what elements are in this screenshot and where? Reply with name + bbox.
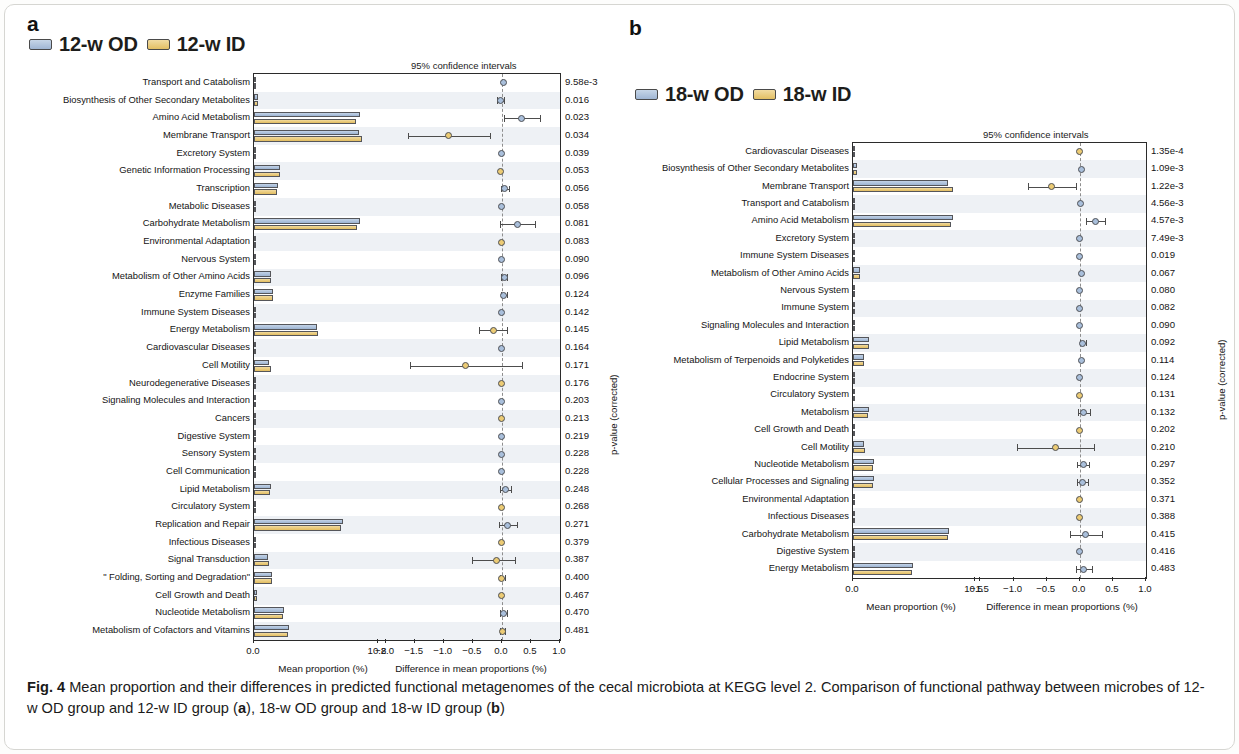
- ci-cap: [507, 327, 508, 334]
- ci-cap: [535, 221, 536, 228]
- ci-cap: [1070, 531, 1071, 538]
- ci-dot-od: [1078, 357, 1085, 364]
- panel-a-ci-layer: [254, 74, 560, 640]
- pvalue-label: 0.056: [565, 183, 589, 193]
- ci-dot-id: [1076, 514, 1083, 521]
- ci-cap: [1105, 218, 1106, 225]
- panel-a: a 12-w OD 12-w ID 95% confidence interva…: [5, 5, 615, 670]
- ci-cap: [507, 610, 508, 617]
- pvalue-label: 0.297: [1151, 459, 1175, 469]
- category-label: Environmental Adaptation: [615, 494, 849, 504]
- ci-dot-id: [498, 415, 505, 422]
- legend-item-id: 18-w ID: [753, 83, 852, 106]
- ci-dot-od: [498, 433, 505, 440]
- category-label: Metabolism of Other Amino Acids: [615, 268, 849, 278]
- axis-tick-label: −0.5: [462, 645, 481, 656]
- ci-dot-id: [493, 557, 500, 564]
- pvalue-label: 7.49e-3: [1151, 233, 1184, 243]
- pvalue-label: 0.124: [565, 289, 589, 299]
- axis-tick: [1046, 577, 1047, 581]
- pvalue-label: 0.034: [565, 130, 589, 140]
- category-label: Signal Transduction: [5, 554, 250, 564]
- panel-b-ci-title: 95% confidence intervals: [983, 129, 1089, 140]
- axis-tick: [1145, 577, 1146, 581]
- pvalue-label: 0.053: [565, 165, 589, 175]
- category-label: Nucleotide Metabolism: [615, 459, 849, 469]
- pvalue-label: 0.124: [1151, 372, 1175, 382]
- category-label: Signaling Molecules and Interaction: [615, 320, 849, 330]
- axis-tick: [1013, 577, 1014, 581]
- ci-cap: [1092, 566, 1093, 573]
- panel-b-left-axis-title: Mean proportion (%): [866, 601, 955, 612]
- ci-cap: [499, 522, 500, 529]
- category-label: Cell Growth and Death: [5, 590, 250, 600]
- ci-dot-od: [1079, 479, 1086, 486]
- category-label: Transport and Catabolism: [5, 77, 250, 87]
- axis-tick: [852, 577, 853, 581]
- ci-dot-od: [498, 256, 505, 263]
- category-label: Enzyme Families: [5, 289, 250, 299]
- axis-tick: [501, 639, 502, 643]
- caption-ref-a: a: [238, 700, 246, 716]
- pvalue-label: 0.132: [1151, 407, 1175, 417]
- category-label: Lipid Metabolism: [615, 337, 849, 347]
- ci-dot-id: [490, 327, 497, 334]
- pvalue-label: 0.090: [565, 254, 589, 264]
- ci-dot-od: [1076, 548, 1083, 555]
- ci-cap: [1102, 531, 1103, 538]
- ci-dot-od: [1077, 200, 1084, 207]
- pvalue-label: 0.096: [565, 271, 589, 281]
- ci-dot-id: [497, 168, 504, 175]
- ci-dot-od: [1079, 340, 1086, 347]
- axis-tick: [414, 639, 415, 643]
- ci-cap: [515, 557, 516, 564]
- ci-dot-od: [1080, 461, 1087, 468]
- ci-dot-od: [498, 468, 505, 475]
- ci-cap: [1086, 218, 1087, 225]
- pvalue-label: 0.176: [565, 378, 589, 388]
- category-label: Biosynthesis of Other Secondary Metaboli…: [615, 163, 849, 173]
- ci-cap: [410, 362, 411, 369]
- ci-dot-id: [462, 362, 469, 369]
- pvalue-label: 0.092: [1151, 337, 1175, 347]
- pvalue-label: 0.081: [565, 218, 589, 228]
- category-label: Digestive System: [5, 431, 250, 441]
- ci-cap: [479, 327, 480, 334]
- pvalue-label: 9.58e-3: [565, 77, 598, 87]
- ci-dot-od: [498, 451, 505, 458]
- axis-tick-label: −0.5: [1036, 583, 1055, 594]
- legend-label-od: 18-w OD: [665, 83, 744, 106]
- ci-dot-od: [498, 203, 505, 210]
- category-label: Circulatory System: [5, 501, 250, 511]
- legend-label-id: 12-w ID: [177, 33, 246, 56]
- caption-end: ): [500, 700, 505, 716]
- panel-b-right-axis-title: Difference in mean proportions (%): [986, 601, 1138, 612]
- ci-cap: [517, 522, 518, 529]
- pvalue-label: 0.131: [1151, 389, 1175, 399]
- category-label: Carbohydrate Metabolism: [5, 218, 250, 228]
- pvalue-label: 0.023: [565, 112, 589, 122]
- pvalue-label: 0.039: [565, 148, 589, 158]
- ci-dot-od: [1076, 287, 1083, 294]
- axis-tick: [1079, 577, 1080, 581]
- ci-dot-od: [1076, 235, 1083, 242]
- caption-label: Fig. 4: [27, 679, 65, 695]
- panel-a-ci-title: 95% confidence intervals: [411, 60, 517, 71]
- ci-dot-od: [1076, 253, 1083, 260]
- ci-cap: [1076, 183, 1077, 190]
- ci-cap: [1094, 444, 1095, 451]
- panel-a-left-axis-title: Mean proportion (%): [278, 663, 367, 674]
- category-label: Cell Motility: [5, 360, 250, 370]
- ci-cap: [500, 221, 501, 228]
- category-label: Cardiovascular Diseases: [5, 342, 250, 352]
- ci-dot-id: [1076, 148, 1083, 155]
- ci-cap: [1077, 462, 1078, 469]
- pvalue-label: 0.228: [565, 466, 589, 476]
- ci-dot-od: [501, 185, 508, 192]
- category-label: Metabolism of Terpenoids and Polyketides: [615, 355, 849, 365]
- ci-cap: [504, 115, 505, 122]
- pvalue-label: 0.164: [565, 342, 589, 352]
- category-label: Membrane Transport: [615, 181, 849, 191]
- caption-ref-b: b: [491, 700, 500, 716]
- axis-tick: [530, 639, 531, 643]
